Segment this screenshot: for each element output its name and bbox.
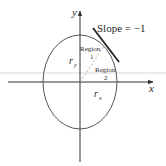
y-axis-label: y: [71, 6, 77, 18]
radius-y-label: r: [69, 55, 73, 66]
radius-x-label: r: [94, 88, 98, 99]
radius-y-subscript: y: [73, 62, 77, 68]
region-2-number: 2: [104, 74, 108, 82]
region-1-number: 1: [90, 53, 94, 61]
region-1-label: Region: [80, 45, 101, 53]
background-band: [0, 72, 166, 74]
region-2-label: Region: [95, 66, 116, 74]
radius-x-subscript: x: [98, 95, 102, 101]
ellipse-regions-diagram: y x Slope = −1 Region 1 Region 2 r y r x: [0, 0, 166, 166]
slope-label: Slope = −1: [97, 22, 145, 34]
x-axis-label: x: [148, 82, 154, 94]
